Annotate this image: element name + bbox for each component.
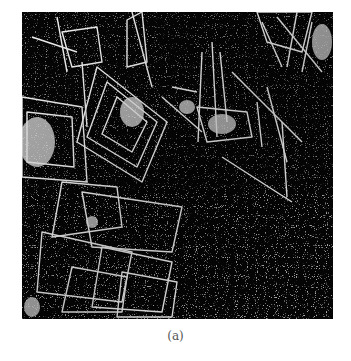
figure-svg xyxy=(22,12,333,319)
figure-caption: (a) xyxy=(0,329,351,343)
edge-detected-image xyxy=(22,12,333,319)
